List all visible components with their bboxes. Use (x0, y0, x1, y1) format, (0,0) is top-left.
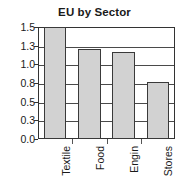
y-axis-tick-label: 1.5 (3, 21, 35, 33)
chart-title: EU by Sector (0, 6, 189, 18)
x-axis-category-label: Stores (162, 146, 174, 176)
x-axis-category-label: Food (94, 146, 106, 170)
x-axis-tick-mark (107, 139, 108, 144)
x-axis-tick-mark (72, 139, 73, 144)
x-axis-tick-mark (141, 139, 142, 144)
y-axis-tick-label: 0.8 (3, 77, 35, 89)
bar (44, 27, 67, 139)
bar-chart: EU by Sector 1.51.31.00.80.50.30.0 Texti… (0, 0, 189, 192)
x-axis-category-label: Engin (128, 146, 140, 173)
y-axis-tick-label: 0.0 (3, 133, 35, 145)
bar (112, 52, 135, 139)
y-axis-tick-label: 0.3 (3, 114, 35, 126)
bars-group (38, 27, 175, 139)
y-axis-tick-label: 1.0 (3, 58, 35, 70)
y-axis-tick-label: 1.3 (3, 40, 35, 52)
bar (78, 49, 101, 139)
y-axis-tick-label: 0.5 (3, 96, 35, 108)
x-axis-category-label: Textile (60, 146, 72, 176)
bar (147, 82, 170, 139)
y-axis-tick-mark (34, 139, 38, 140)
